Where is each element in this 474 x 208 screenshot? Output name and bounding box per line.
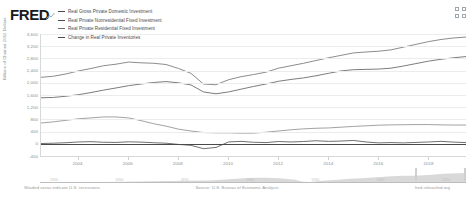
legend-item[interactable]: Real Private Nonresidential Fixed Invest… — [58, 16, 162, 24]
zero-line — [41, 144, 466, 145]
legend-label: Real Private Nonresidential Fixed Invest… — [68, 18, 162, 23]
x-tick-mark — [78, 157, 79, 160]
range-selector[interactable]: 1950196019701980199020002010 — [40, 168, 466, 183]
gridline — [41, 95, 466, 96]
y-tick-label: 0 — [12, 141, 38, 146]
range-handle-left[interactable] — [415, 168, 417, 181]
legend-swatch — [58, 20, 65, 21]
y-tick-label: 1,600 — [12, 93, 38, 98]
expand-square-br — [462, 14, 466, 18]
y-axis-title: Billions of Chained 2012 Dollars — [2, 17, 7, 80]
y-tick-label: 3,600 — [12, 32, 38, 37]
gridline — [41, 83, 466, 84]
legend-label: Real Gross Private Domestic Investment — [68, 9, 152, 14]
x-tick-label: 2004 — [73, 161, 83, 166]
x-tick-mark — [228, 157, 229, 160]
x-tick-mark — [178, 157, 179, 160]
fred-logo[interactable]: FRED — [10, 7, 49, 22]
range-tick-label: 2010 — [442, 178, 450, 182]
x-tick-mark — [428, 157, 429, 160]
range-tick-label: 1960 — [115, 178, 123, 182]
gridline — [41, 34, 466, 35]
x-tick-label: 2016 — [373, 161, 383, 166]
range-tick-label: 1970 — [181, 178, 189, 182]
expand-square-tl — [455, 7, 459, 11]
x-tick-label: 2012 — [273, 161, 283, 166]
series-line — [41, 57, 466, 98]
y-tick-label: 3,200 — [12, 44, 38, 49]
y-axis-ticks: 3,6003,2002,8002,4002,0001,6001,20080040… — [10, 34, 38, 164]
chart-footer: Shaded areas indicate U.S. recessions So… — [0, 183, 474, 199]
x-tick-label: 2006 — [123, 161, 133, 166]
y-tick-label: 2,400 — [12, 68, 38, 73]
gridline — [41, 132, 466, 133]
y-tick-label: 800 — [12, 117, 38, 122]
y-tick-label: 2,000 — [12, 80, 38, 85]
x-tick-label: 2010 — [223, 161, 233, 166]
x-tick-mark — [378, 157, 379, 160]
range-tick-label: 2000 — [377, 178, 385, 182]
expand-square-bl — [455, 14, 459, 18]
gridline — [41, 107, 466, 108]
y-tick-label: -400 — [12, 154, 38, 159]
x-tick-label: 2014 — [323, 161, 333, 166]
chart-area: Billions of Chained 2012 Dollars 3,6003,… — [0, 34, 474, 164]
expand-grid-icon[interactable] — [455, 7, 466, 18]
gridline — [41, 46, 466, 47]
legend-swatch — [58, 28, 65, 29]
fred-url[interactable]: fred.stlouisfed.org — [415, 185, 450, 190]
legend-item[interactable]: Real Private Residential Fixed Investmen… — [58, 25, 162, 33]
gridline — [41, 58, 466, 59]
fred-chart-widget: FRED Real Gross Private Domestic Investm… — [0, 0, 474, 208]
plot-region[interactable] — [40, 34, 466, 156]
y-tick-label: 1,200 — [12, 105, 38, 110]
legend-item[interactable]: Real Gross Private Domestic Investment — [58, 8, 162, 16]
range-handle-right[interactable] — [464, 168, 466, 181]
source-note: Source: U.S. Bureau of Economic Analysis — [195, 185, 278, 190]
x-tick-label: 2008 — [173, 161, 183, 166]
recession-note: Shaded areas indicate U.S. recessions — [24, 185, 100, 190]
chart-header: FRED Real Gross Private Domestic Investm… — [0, 0, 474, 34]
range-tick-label: 1980 — [246, 178, 254, 182]
legend-swatch — [58, 11, 65, 12]
legend-label: Real Private Residential Fixed Investmen… — [68, 26, 155, 31]
x-tick-mark — [328, 157, 329, 160]
expand-square-tr — [462, 7, 466, 11]
x-tick-label: 2018 — [423, 161, 433, 166]
range-tick-label: 1990 — [311, 178, 319, 182]
x-tick-mark — [128, 157, 129, 160]
range-tick-label: 1950 — [50, 178, 58, 182]
series-line — [41, 37, 466, 85]
fred-graph-mark-icon — [46, 12, 55, 20]
y-tick-label: 400 — [12, 129, 38, 134]
gridline — [41, 71, 466, 72]
gridline — [41, 119, 466, 120]
x-tick-mark — [278, 157, 279, 160]
y-tick-label: 2,800 — [12, 56, 38, 61]
